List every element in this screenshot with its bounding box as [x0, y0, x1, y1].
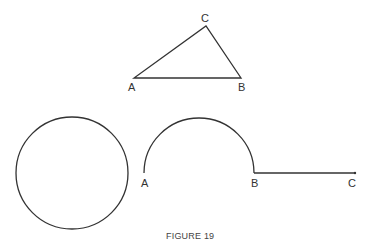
- semicircle-label-a: A: [141, 177, 149, 189]
- segment-label-c: C: [348, 177, 356, 189]
- circle: [16, 117, 128, 229]
- figure-caption: FIGURE 19: [166, 231, 214, 241]
- figure-19: A B C A B C FIGURE 19: [0, 0, 370, 251]
- semicircle-arc: [144, 118, 254, 173]
- triangle-label-c: C: [201, 12, 209, 24]
- triangle-abc: A B C: [128, 12, 245, 93]
- triangle-label-b: B: [238, 81, 245, 93]
- segment-bc: B C: [251, 172, 356, 189]
- triangle-outline: [134, 26, 241, 78]
- triangle-label-a: A: [128, 81, 136, 93]
- semicircle-ab: A: [141, 118, 254, 189]
- segment-endpoint-c: [354, 172, 356, 174]
- segment-label-b: B: [251, 177, 258, 189]
